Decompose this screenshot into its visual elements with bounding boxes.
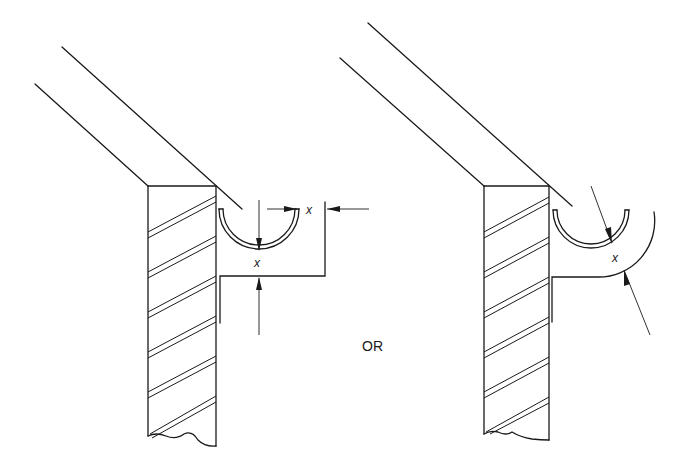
left-wall [148,186,216,446]
right-panel: x [340,23,655,440]
left-vertical-dim-label: x [253,256,261,270]
gutter-diagram: x x OR [0,0,690,474]
right-radial-dim-label: x [611,251,619,265]
left-wall-hatching [148,196,216,438]
right-wall-hatching [484,197,549,434]
right-curved-fascia [552,212,655,322]
or-separator-label: OR [362,338,383,354]
left-vertical-dimension: x [253,200,262,335]
right-radial-dimension: x [591,186,650,335]
left-horizontal-dimension: x [267,203,369,217]
left-roof [35,47,242,209]
left-fascia-board [220,202,325,323]
left-horizontal-dim-label: x [305,203,313,217]
right-roof [340,23,572,206]
right-wall [484,186,549,440]
right-gutter [553,210,629,248]
left-panel: x x [35,47,369,446]
